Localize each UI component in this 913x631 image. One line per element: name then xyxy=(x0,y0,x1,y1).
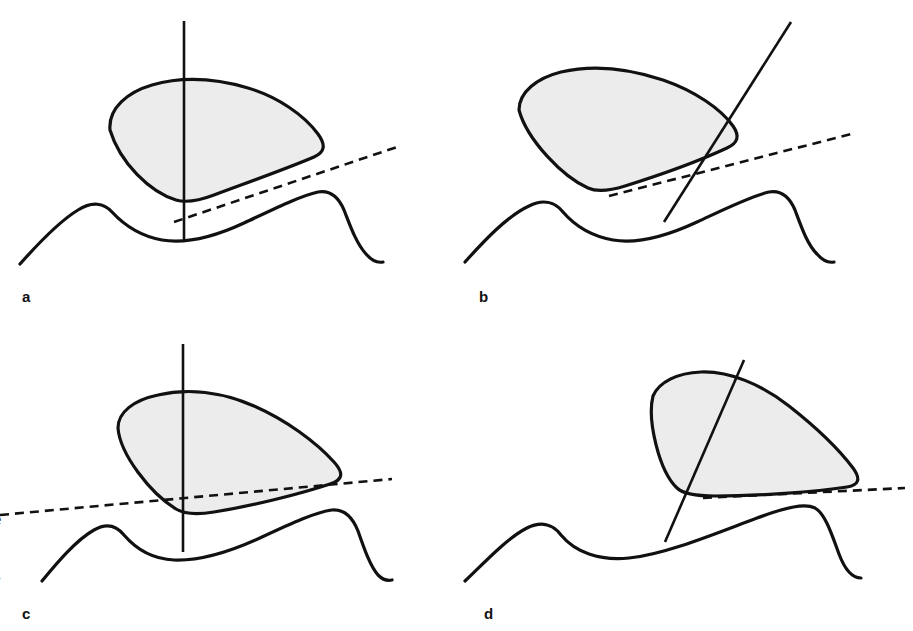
panel-b xyxy=(457,0,913,315)
margin-text-fragment-hyphen: - xyxy=(0,571,4,585)
panel-c-body-shape xyxy=(118,392,341,514)
panel-b-bone-contour xyxy=(465,192,834,263)
margin-text-fragment-e: e xyxy=(0,513,4,527)
figure-root: a b c d e - xyxy=(0,0,913,631)
panel-c-drawing xyxy=(0,316,456,631)
panel-a-bone-contour xyxy=(20,192,383,264)
panel-label-b: b xyxy=(479,289,488,304)
panel-d-bone-contour xyxy=(465,506,861,581)
panel-d-body-shape xyxy=(651,372,857,496)
panel-label-d: d xyxy=(484,606,493,621)
panel-a-drawing xyxy=(0,0,456,315)
panel-a xyxy=(0,0,456,315)
panel-label-a: a xyxy=(22,289,30,304)
panel-c-bone-contour xyxy=(42,510,392,581)
panel-label-c: c xyxy=(22,606,30,621)
panel-d xyxy=(457,316,913,631)
panel-b-drawing xyxy=(457,0,913,315)
panel-d-drawing xyxy=(457,316,913,631)
panel-c xyxy=(0,316,456,631)
